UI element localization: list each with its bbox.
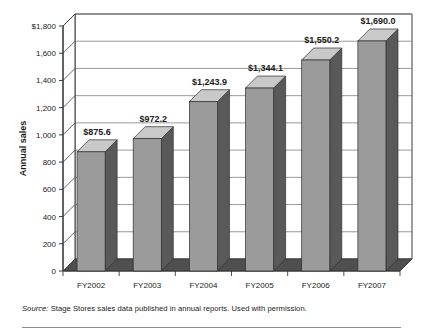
bar-front-face <box>77 152 105 271</box>
y-axis-tick-label: 1,200 <box>36 104 57 113</box>
y-axis-tick-label: 600 <box>43 185 57 194</box>
bar-side-face <box>386 29 398 271</box>
bar-front-face <box>358 41 386 271</box>
bar-value-label: $1,344.1 <box>248 63 283 73</box>
y-axis-tick-label: $1,800 <box>32 22 57 31</box>
bar-front-face <box>302 60 330 271</box>
y-axis-tick-label: 200 <box>43 240 57 249</box>
bar-value-label: $875.6 <box>83 127 111 137</box>
bar-group[interactable] <box>77 140 117 271</box>
bar-front-face <box>133 139 161 271</box>
bar-side-face <box>274 76 286 271</box>
source-text: Stage Stores sales data published in ann… <box>51 304 307 313</box>
bar-side-face <box>105 140 117 271</box>
y-axis-tick-label: 800 <box>43 158 57 167</box>
y-axis-tick-label: 400 <box>43 213 57 222</box>
bar-value-label: $1,550.2 <box>304 35 339 45</box>
x-axis-category-label: FY2006 <box>302 281 331 290</box>
bar-value-label: $1,690.0 <box>360 16 395 26</box>
x-axis-category-label: FY2007 <box>358 281 387 290</box>
annual-sales-bar-chart: 02004006008001,0001,2001,4001,600$1,800$… <box>0 0 421 332</box>
bar-side-face <box>161 127 173 271</box>
y-axis-tick-label: 1,000 <box>36 131 57 140</box>
x-axis-category-label: FY2004 <box>189 281 218 290</box>
bar-group[interactable] <box>302 48 342 271</box>
bar-group[interactable] <box>358 29 398 271</box>
x-axis-category-label: FY2005 <box>246 281 275 290</box>
bar-group[interactable] <box>133 127 173 271</box>
y-axis-title: Annual sales <box>18 121 28 177</box>
bar-value-label: $972.2 <box>139 114 167 124</box>
source-label: Source: <box>22 304 49 313</box>
bar-value-label: $1,243.9 <box>192 77 227 87</box>
x-axis-category-label: FY2003 <box>133 281 162 290</box>
plot-left-wall <box>63 14 75 271</box>
bottom-divider <box>22 327 401 328</box>
bar-group[interactable] <box>246 76 286 271</box>
bar-group[interactable] <box>189 90 229 271</box>
source-note: Source: Stage Stores sales data publishe… <box>22 304 307 313</box>
y-axis-tick-label: 0 <box>52 267 57 276</box>
bar-side-face <box>330 48 342 271</box>
y-axis-tick-label: 1,400 <box>36 76 57 85</box>
bar-side-face <box>217 90 229 271</box>
bar-front-face <box>189 102 217 271</box>
bar-front-face <box>246 88 274 271</box>
y-axis-tick-label: 1,600 <box>36 49 57 58</box>
chart-figure: 02004006008001,0001,2001,4001,600$1,800$… <box>0 0 421 332</box>
x-axis-category-label: FY2002 <box>77 281 106 290</box>
